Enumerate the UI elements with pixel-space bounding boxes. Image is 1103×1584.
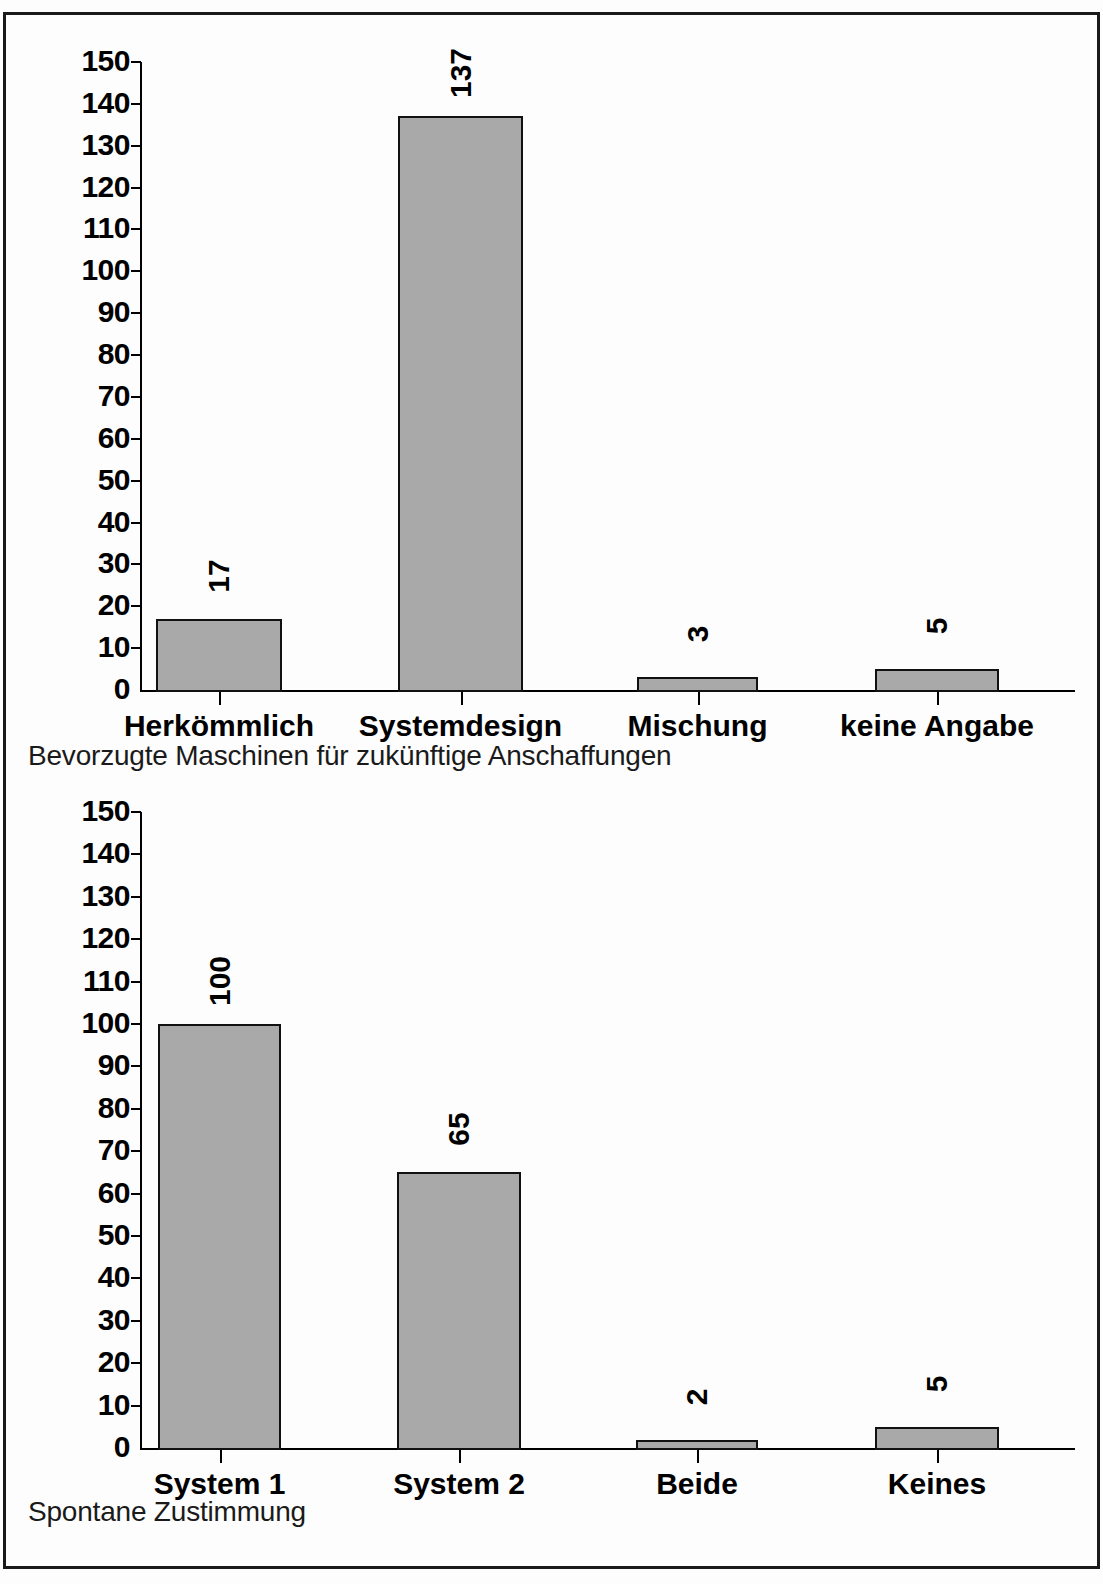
y-axis-tick-mark [131,896,141,898]
bar-chart-bevorzugte-maschinen: 150140130120110100908070605040302010017H… [0,0,1103,780]
y-axis-tick-label: 0 [18,674,130,704]
y-axis-tick-label: 30 [18,1305,130,1335]
x-axis-tick-mark [459,1450,461,1463]
y-axis-tick-mark [131,103,141,105]
y-axis-tick-label: 150 [18,796,130,826]
y-axis-tick-label: 80 [18,1093,130,1123]
y-axis-tick-mark [131,811,141,813]
y-axis-tick-mark [131,1320,141,1322]
y-axis-tick-mark [131,438,141,440]
y-axis-tick-label: 140 [18,88,130,118]
y-axis-tick-mark [131,396,141,398]
y-axis-tick-mark [131,1277,141,1279]
y-axis-tick-mark [131,187,141,189]
y-axis-tick-label: 80 [18,339,130,369]
y-axis-tick-mark [131,354,141,356]
y-axis-tick-label: 30 [18,548,130,578]
bar [158,1024,281,1450]
y-axis-tick-label: 150 [18,46,130,76]
y-axis-tick-mark [131,61,141,63]
y-axis-tick-label: 140 [18,838,130,868]
y-axis-tick-mark [131,938,141,940]
y-axis-tick-label: 60 [18,423,130,453]
x-axis-tick-mark [698,692,700,705]
x-axis-category-label: keine Angabe [787,710,1087,742]
bar-chart-spontane-zustimmung: 1501401301201101009080706050403020100100… [0,780,1103,1560]
y-axis-tick-mark [131,605,141,607]
y-axis-tick-label: 130 [18,881,130,911]
y-axis-tick-label: 100 [18,1008,130,1038]
y-axis-tick-mark [131,228,141,230]
bar-value-label: 3 [683,579,713,689]
y-axis-tick-label: 130 [18,130,130,160]
y-axis-tick-mark [131,981,141,983]
y-axis-tick-label: 50 [18,465,130,495]
y-axis-tick-mark [131,1150,141,1152]
y-axis-tick-label: 60 [18,1178,130,1208]
y-axis-tick-mark [131,1108,141,1110]
y-axis-tick-mark [131,1405,141,1407]
y-axis-tick-label: 40 [18,507,130,537]
y-axis-tick-mark [131,1065,141,1067]
bar [397,1172,521,1450]
x-axis-tick-mark [697,1450,699,1463]
y-axis-tick-label: 10 [18,632,130,662]
bar-value-label: 5 [922,1329,952,1439]
y-axis-tick-label: 20 [18,1347,130,1377]
y-axis-tick-label: 0 [18,1432,130,1462]
y-axis-tick-mark [131,1193,141,1195]
y-axis-tick-label: 90 [18,297,130,327]
y-axis-tick-label: 120 [18,172,130,202]
y-axis-tick-label: 70 [18,1135,130,1165]
y-axis-tick-label: 100 [18,255,130,285]
y-axis-tick-mark [131,563,141,565]
x-axis-tick-mark [937,1450,939,1463]
y-axis-tick-label: 50 [18,1220,130,1250]
y-axis-tick-label: 20 [18,590,130,620]
y-axis-tick-label: 110 [18,213,130,243]
y-axis-tick-mark [131,853,141,855]
x-axis-tick-mark [220,1450,222,1463]
bar-value-label: 2 [682,1342,712,1452]
y-axis-tick-label: 110 [18,966,130,996]
page-border-bottom [3,1566,1100,1569]
y-axis-tick-mark [131,145,141,147]
page-canvas: 150140130120110100908070605040302010017H… [0,0,1103,1584]
y-axis-tick-label: 10 [18,1390,130,1420]
y-axis-tick-mark [131,647,141,649]
y-axis-tick-label: 120 [18,923,130,953]
y-axis-tick-mark [131,1362,141,1364]
y-axis-tick-label: 70 [18,381,130,411]
bar-value-label: 17 [204,521,234,631]
y-axis-tick-mark [131,312,141,314]
plot-area-top: 150140130120110100908070605040302010017H… [0,0,1103,780]
y-axis-tick-mark [131,1023,141,1025]
y-axis-tick-mark [131,270,141,272]
x-axis-category-label: Keines [787,1468,1087,1500]
x-axis-tick-mark [937,692,939,705]
bar [398,116,523,692]
bar-value-label: 5 [922,571,952,681]
y-axis-tick-label: 90 [18,1050,130,1080]
chart-caption-bottom: Spontane Zustimmung [28,1496,306,1528]
y-axis-tick-mark [131,1235,141,1237]
bar-value-label: 137 [446,18,476,128]
y-axis-line [140,62,142,692]
y-axis-tick-mark [131,480,141,482]
y-axis-line [140,812,142,1450]
y-axis-tick-label: 40 [18,1262,130,1292]
plot-area-bottom: 1501401301201101009080706050403020100100… [0,780,1103,1560]
bar-value-label: 65 [444,1074,474,1184]
bar-value-label: 100 [205,926,235,1036]
x-axis-tick-mark [219,692,221,705]
y-axis-tick-mark [131,522,141,524]
x-axis-tick-mark [461,692,463,705]
chart-caption-top: Bevorzugte Maschinen für zukünftige Ansc… [28,740,671,772]
